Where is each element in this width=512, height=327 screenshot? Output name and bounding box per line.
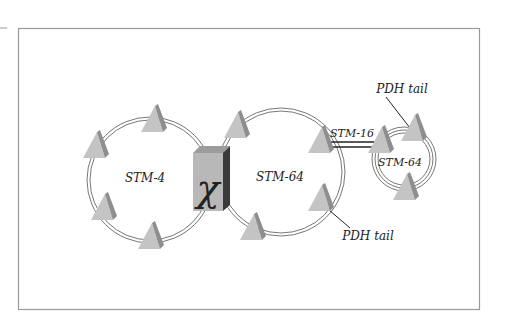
pdh-tail-top-leader (386, 97, 410, 128)
node-icon (138, 221, 164, 249)
cross-connect-symbol: χ (193, 166, 221, 210)
link-stm16-label: STM-16 (330, 127, 374, 140)
pdh-tail-bottom-leader (329, 210, 350, 228)
cross-connect-box: χ (193, 146, 230, 211)
ring-stm64-main-label: STM-64 (256, 170, 304, 184)
pdh-tail-top-label: PDH tail (375, 82, 428, 96)
pdh-tail-bottom-label: PDH tail (341, 229, 394, 243)
node-icon (393, 172, 419, 200)
node-icon (224, 110, 250, 138)
ring-stm4-label: STM-4 (125, 171, 165, 185)
node-icon (240, 212, 266, 240)
node-icon (91, 192, 117, 220)
ring-stm64-small-label: STM-64 (378, 156, 422, 169)
network-diagram: χ STM-4 STM-64 STM-64 STM-16 PDH tail PD… (0, 0, 512, 327)
node-icon (141, 104, 167, 132)
node-icon (83, 130, 109, 158)
node-icon (308, 183, 334, 211)
